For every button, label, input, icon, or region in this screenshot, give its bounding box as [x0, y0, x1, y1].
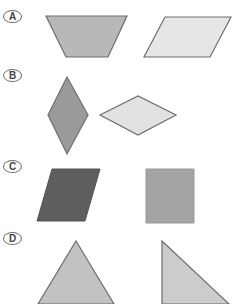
option-c-shapes[interactable]: [37, 169, 194, 223]
trapezoid-shape: [46, 16, 127, 57]
parallelogram-dark-shape: [37, 169, 100, 221]
option-d-shapes[interactable]: [38, 241, 229, 304]
rhombus-horizontal-shape: [100, 96, 176, 135]
option-a-shapes[interactable]: [46, 16, 231, 57]
parallelogram-shape: [144, 17, 231, 57]
option-b-shapes[interactable]: [48, 77, 176, 154]
isosceles-triangle-shape: [38, 241, 114, 304]
rectangle-shape: [146, 169, 194, 223]
shapes-canvas: [0, 0, 235, 304]
right-triangle-shape: [162, 241, 229, 304]
rhombus-vertical-shape: [48, 77, 88, 154]
